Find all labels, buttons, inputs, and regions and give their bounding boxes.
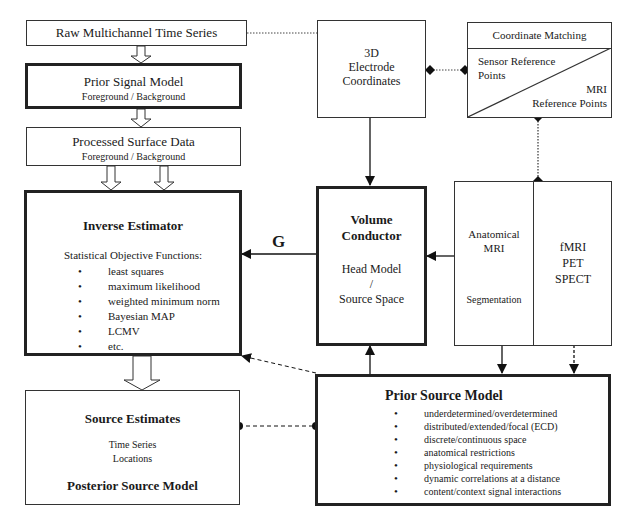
hollow-arrow-prior-processed (131, 109, 151, 127)
coord-matching-box: Coordinate Matching Sensor Reference Poi… (467, 22, 612, 118)
inverse-item: LCMV (108, 324, 220, 339)
processed-box: Processed Surface Data Foreground / Back… (26, 127, 241, 166)
prior-source-item: distributed/extended/focal (ECD) (424, 420, 561, 433)
inverse-item: maximum likelihood (108, 279, 220, 294)
processed-subtitle: Foreground / Background (27, 151, 240, 162)
mri-ref-label: MRI Reference Points (532, 82, 607, 110)
imaging-box: Anatomical MRI Segmentation fMRI PET SPE… (454, 181, 612, 346)
processed-title: Processed Surface Data (27, 134, 240, 150)
prior-signal-box: Prior Signal Model Foreground / Backgrou… (25, 63, 242, 109)
anatomical-panel: Anatomical MRI Segmentation (455, 182, 534, 345)
prior-source-box: Prior Source Model underdetermined/overd… (315, 374, 611, 506)
electrode-line1: 3D (318, 46, 425, 60)
inverse-title: Inverse Estimator (27, 218, 239, 234)
source-estimates-box: Source Estimates Time Series Locations P… (25, 390, 240, 505)
electrode-line3: Coordinates (318, 74, 425, 88)
posterior-source-model-label: Posterior Source Model (26, 478, 239, 494)
prior-source-item: underdetermined/overdetermined (424, 407, 561, 420)
g-label: G (272, 232, 285, 252)
electrode-box: 3D Electrode Coordinates (317, 20, 426, 118)
sensor-ref-label: Sensor Reference Points (478, 54, 555, 82)
prior-source-item: content/context signal interactions (424, 485, 561, 498)
functional-panel: fMRI PET SPECT (534, 182, 612, 345)
inverse-item: Bayesian MAP (108, 309, 220, 324)
coord-matching-title: Coordinate Matching (468, 23, 611, 49)
hollow-arrow-processed-inverse-right (154, 166, 174, 190)
electrode-line2: Electrode (318, 60, 425, 74)
prior-signal-title: Prior Signal Model (28, 74, 239, 90)
source-estimates-title: Source Estimates (26, 411, 239, 427)
prior-source-item: physiological requirements (424, 459, 561, 472)
prior-source-item: discrete/continuous space (424, 433, 561, 446)
diamond-connector (425, 65, 435, 75)
inverse-subtitle: Statistical Objective Functions: (27, 249, 239, 261)
raw-series-label: Raw Multichannel Time Series (56, 25, 217, 40)
prior-source-item: dynamic correlations at a distance (424, 472, 561, 485)
prior-source-title: Prior Source Model (385, 388, 503, 404)
prior-source-item: anatomical restrictions (424, 446, 561, 459)
volume-conductor-box: Volume Conductor Head Model / Source Spa… (316, 186, 427, 346)
inverse-item: least squares (108, 264, 220, 279)
hollow-arrow-raw-prior (131, 46, 151, 63)
inverse-item: weighted minimum norm (108, 294, 220, 309)
volume-title: Volume Conductor (319, 212, 424, 244)
inverse-estimator-box: Inverse Estimator Statistical Objective … (24, 190, 242, 356)
dashed-arrow-prior-source-inverse (242, 356, 316, 373)
hollow-arrow-inverse-source (124, 356, 160, 390)
hollow-arrow-processed-inverse-left (101, 166, 121, 190)
prior-source-list: underdetermined/overdetermined distribut… (424, 407, 561, 498)
anatomical-title: Anatomical MRI (455, 227, 533, 255)
inverse-list: least squares maximum likelihood weighte… (108, 264, 220, 354)
source-estimates-details: Time Series Locations (26, 438, 239, 466)
prior-signal-subtitle: Foreground / Background (28, 91, 239, 102)
raw-series-box: Raw Multichannel Time Series (26, 20, 247, 46)
volume-subtitle: Head Model / Source Space (319, 262, 424, 307)
inverse-item: etc. (108, 339, 220, 354)
segmentation-label: Segmentation (455, 294, 533, 305)
